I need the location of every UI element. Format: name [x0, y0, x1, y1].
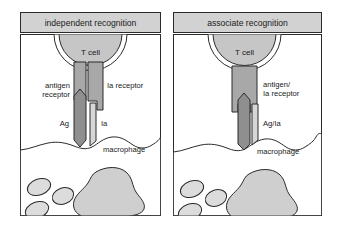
recognition-diagram: independent recognition T cell macrophag…: [0, 0, 339, 226]
macrophage-label: macrophage: [257, 147, 299, 156]
ag-ligand-label: Ag: [60, 119, 69, 128]
panel-independent-recognition: independent recognition T cell macrophag…: [21, 13, 161, 222]
t-cell-label: T cell: [81, 48, 100, 57]
panel-title-bar-independent: independent recognition: [21, 13, 161, 33]
ag-ia-ligand-light: [252, 104, 258, 145]
macrophage-label: macrophage: [103, 145, 145, 154]
ag-ia-ligand-label: Ag/Ia: [263, 119, 282, 128]
antigen-ia-receptor-label-line1: antigen/: [263, 80, 291, 89]
panel-title-text: independent recognition: [45, 18, 137, 28]
antigen-ia-receptor-label-line2: Ia receptor: [263, 89, 300, 98]
panel-title-bar-associate: associate recognition: [174, 13, 322, 33]
ia-receptor-label: Ia receptor: [107, 81, 144, 90]
panel-associate-recognition: associate recognition T cell macrophage: [174, 13, 322, 224]
panel-title-text: associate recognition: [207, 18, 288, 28]
ia-ligand-label: Ia: [101, 119, 108, 128]
ag-ligand-shape: [74, 89, 86, 147]
antigen-receptor-label-line2: receptor: [42, 90, 70, 99]
ia-ligand-shape: [90, 103, 96, 146]
antigen-receptor-label-line1: antigen: [45, 81, 70, 90]
t-cell-label: T cell: [235, 48, 254, 57]
ag-ia-ligand-dark: [238, 93, 250, 150]
